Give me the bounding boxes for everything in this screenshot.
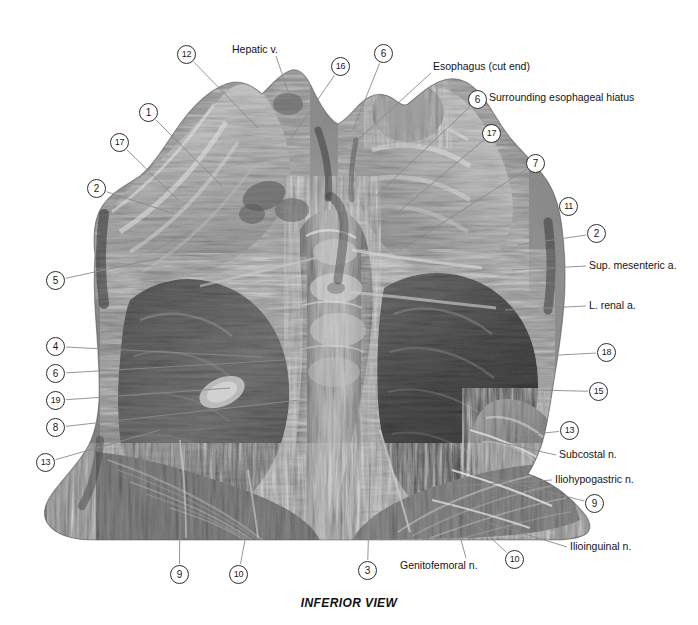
callout-circle-19[interactable]: 19 <box>46 391 65 410</box>
callout-circle-17[interactable]: 17 <box>110 133 129 152</box>
callout-circle-6[interactable]: 6 <box>374 44 393 63</box>
text-label-ilioinguinal-n: Ilioinguinal n. <box>570 541 631 553</box>
callout-circle-15[interactable]: 15 <box>589 382 608 401</box>
text-label-esoph-hiatus: Surrounding esophageal hiatus <box>489 92 634 104</box>
callout-circle-6[interactable]: 6 <box>46 364 65 383</box>
anatomical-figure: 1211725461981316661771121815139910310Hep… <box>0 0 698 625</box>
callout-circle-10[interactable]: 10 <box>505 550 524 569</box>
text-label-hepatic-v: Hepatic v. <box>232 44 278 56</box>
text-label-sup-mesenteric-a: Sup. mesenteric a. <box>589 260 677 272</box>
callout-circle-2[interactable]: 2 <box>587 224 606 243</box>
callout-circle-11[interactable]: 11 <box>559 197 578 216</box>
callout-circle-8[interactable]: 8 <box>46 418 65 437</box>
text-label-esophagus-cut: Esophagus (cut end) <box>433 61 530 73</box>
callout-circle-13[interactable]: 13 <box>560 421 579 440</box>
callout-circle-10[interactable]: 10 <box>229 565 248 584</box>
callout-circle-18[interactable]: 18 <box>597 343 616 362</box>
callout-circle-17[interactable]: 17 <box>482 124 501 143</box>
figure-caption: INFERIOR VIEW <box>0 596 698 610</box>
callout-circle-7[interactable]: 7 <box>526 154 545 173</box>
callout-circle-13[interactable]: 13 <box>36 453 55 472</box>
callout-circle-5[interactable]: 5 <box>46 271 65 290</box>
callout-circle-12[interactable]: 12 <box>177 45 196 64</box>
text-label-genitofemoral-n: Genitofemoral n. <box>400 560 478 572</box>
text-label-l-renal-a: L. renal a. <box>589 300 636 312</box>
callout-circle-6[interactable]: 6 <box>468 90 487 109</box>
text-label-iliohypogastric-n: Iliohypogastric n. <box>555 474 634 486</box>
callout-circle-4[interactable]: 4 <box>46 337 65 356</box>
callout-circle-16[interactable]: 16 <box>331 57 350 76</box>
callout-circle-9[interactable]: 9 <box>170 565 189 584</box>
callout-circle-9[interactable]: 9 <box>585 494 604 513</box>
callout-circle-1[interactable]: 1 <box>139 103 158 122</box>
text-label-subcostal-n: Subcostal n. <box>559 449 617 461</box>
callout-circle-3[interactable]: 3 <box>358 561 377 580</box>
callout-circle-2[interactable]: 2 <box>87 179 106 198</box>
